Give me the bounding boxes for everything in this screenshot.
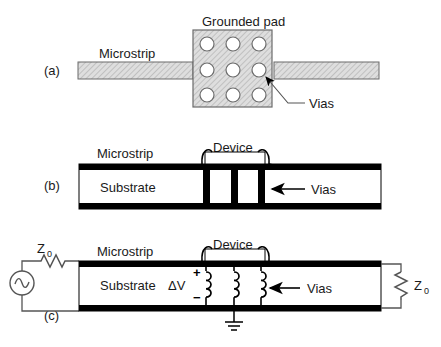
via-hole (200, 37, 214, 51)
microstrip-trace-right (274, 62, 379, 79)
via-hole (252, 88, 266, 102)
top-metal-right-c (265, 261, 381, 267)
via-bar-b (231, 164, 238, 209)
panel-b-tag: (b) (44, 178, 60, 193)
via-bar-b (203, 164, 210, 209)
via-hole (200, 63, 214, 77)
via-hole (200, 88, 214, 102)
delta-v-plus-sign: + (193, 265, 201, 280)
via-bar-b (258, 164, 265, 209)
top-metal-left-b (79, 164, 203, 170)
panel-a-vias-label: Vias (309, 96, 335, 111)
z-load-label: Z (414, 278, 422, 293)
panel-c-substrate-label: Substrate (100, 278, 156, 293)
device-package-c (205, 249, 265, 261)
device-package-b (205, 152, 265, 164)
via-hole (226, 37, 240, 51)
microstrip-trace-left (78, 62, 193, 79)
top-metal-pad-c (203, 261, 265, 267)
panel-b-vias-label: Vias (311, 182, 337, 197)
delta-v-minus-sign: − (193, 290, 201, 305)
top-metal-left-c (79, 261, 203, 267)
panel-a-microstrip-label: Microstrip (99, 46, 155, 61)
figure-microstrip-vias: (a) Grounded pad Microstrip Vias (b) Mic… (0, 0, 441, 347)
via-hole (252, 37, 266, 51)
z-load-subscript: 0 (424, 286, 429, 296)
panel-a-tag: (a) (44, 63, 60, 78)
panel-c-vias-label: Vias (307, 281, 333, 296)
bottom-ground-plane-b (79, 203, 381, 209)
panel-c-microstrip-label: Microstrip (97, 244, 153, 259)
bottom-ground-plane-c (79, 305, 381, 311)
via-hole (226, 88, 240, 102)
grounded-pad-label: Grounded pad (202, 14, 285, 29)
z-source-subscript: 0 (47, 249, 52, 259)
via-hole (226, 63, 240, 77)
delta-v-label: ΔV (168, 278, 186, 293)
via-hole (252, 63, 266, 77)
panel-b-microstrip-label: Microstrip (97, 146, 153, 161)
panel-b-substrate-label: Substrate (100, 180, 156, 195)
panel-c-tag: (c) (44, 308, 59, 323)
